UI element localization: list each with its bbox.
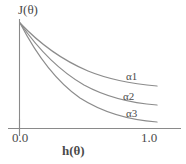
curve-alpha2 xyxy=(20,23,157,105)
series-label-alpha1: α1 xyxy=(126,71,137,82)
series-label-alpha3: α3 xyxy=(126,108,137,119)
chart-figure: J(θ) h(θ) 0.0 1.0 α1 α2 α3 xyxy=(0,0,186,164)
x-tick-label-0: 0.0 xyxy=(12,131,28,144)
series-label-alpha2: α2 xyxy=(123,91,134,102)
x-tick-label-1: 1.0 xyxy=(141,131,157,144)
x-axis-label: h(θ) xyxy=(62,144,85,157)
y-axis-label: J(θ) xyxy=(18,3,38,16)
